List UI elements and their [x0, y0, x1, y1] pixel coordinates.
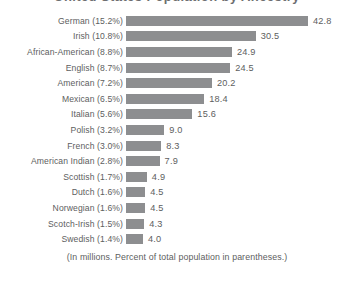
bar-value-label: 18.4 [209, 94, 228, 104]
bar-track: 30.5 [126, 29, 354, 45]
bar [126, 203, 145, 213]
bar [126, 16, 308, 26]
bar-value-label: 9.0 [169, 125, 182, 135]
bar-value-label: 4.5 [150, 203, 163, 213]
bar-row: Dutch (1.6%)4.5 [0, 185, 354, 201]
bar [126, 125, 164, 135]
bar-value-label: 30.5 [261, 31, 280, 41]
bar-track: 24.5 [126, 60, 354, 76]
bar [126, 109, 192, 119]
bar [126, 141, 161, 151]
bar-value-label: 4.0 [148, 234, 161, 244]
bar-value-label: 15.6 [197, 109, 216, 119]
bar-row: French (3.0%)8.3 [0, 138, 354, 154]
bar-track: 4.5 [126, 185, 354, 201]
bar-value-label: 8.3 [166, 141, 179, 151]
bar [126, 94, 204, 104]
bar-track: 4.9 [126, 169, 354, 185]
chart-footnote: (In millions. Percent of total populatio… [0, 252, 354, 262]
bar-category-label: Irish (10.8%) [0, 31, 126, 41]
bar-category-label: American Indian (2.8%) [0, 156, 126, 166]
bar [126, 187, 145, 197]
bar-track: 20.2 [126, 75, 354, 91]
bar-row: Scotch-Irish (1.5%)4.3 [0, 216, 354, 232]
bar-track: 15.6 [126, 107, 354, 123]
bar-category-label: German (15.2%) [0, 16, 126, 26]
bar-category-label: Dutch (1.6%) [0, 187, 126, 197]
bar-value-label: 24.5 [235, 63, 254, 73]
bar-category-label: African-American (8.8%) [0, 47, 126, 57]
chart-title: United States Population by Ancestry [0, 0, 354, 4]
bar-track: 4.5 [126, 200, 354, 216]
bar-row: German (15.2%)42.8 [0, 13, 354, 29]
bar-category-label: French (3.0%) [0, 141, 126, 151]
chart-plot-area: German (15.2%)42.8Irish (10.8%)30.5Afric… [0, 13, 354, 247]
bar-row: African-American (8.8%)24.9 [0, 44, 354, 60]
bar-value-label: 4.3 [149, 219, 162, 229]
bar-chart: United States Population by Ancestry Ger… [0, 0, 354, 281]
bar [126, 172, 147, 182]
bar-category-label: Polish (3.2%) [0, 125, 126, 135]
bar-value-label: 4.5 [150, 187, 163, 197]
bar-row: Italian (5.6%)15.6 [0, 107, 354, 123]
bar-category-label: Swedish (1.4%) [0, 234, 126, 244]
bar-track: 18.4 [126, 91, 354, 107]
bar-track: 8.3 [126, 138, 354, 154]
bar-row: American (7.2%)20.2 [0, 75, 354, 91]
bar-category-label: Scotch-Irish (1.5%) [0, 219, 126, 229]
bar-value-label: 7.9 [165, 156, 178, 166]
bar-category-label: Italian (5.6%) [0, 109, 126, 119]
bar-value-label: 24.9 [237, 47, 256, 57]
bar-track: 42.8 [126, 13, 354, 29]
bar-category-label: English (8.7%) [0, 63, 126, 73]
bar-category-label: Norwegian (1.6%) [0, 203, 126, 213]
bar-value-label: 42.8 [313, 16, 332, 26]
bar-track: 9.0 [126, 122, 354, 138]
bar-row: Polish (3.2%)9.0 [0, 122, 354, 138]
bar [126, 78, 212, 88]
bar-track: 24.9 [126, 44, 354, 60]
bar-row: Scottish (1.7%)4.9 [0, 169, 354, 185]
bar-category-label: American (7.2%) [0, 78, 126, 88]
bar-row: Swedish (1.4%)4.0 [0, 231, 354, 247]
bar [126, 156, 160, 166]
bar-row: English (8.7%)24.5 [0, 60, 354, 76]
bar [126, 47, 232, 57]
bar-track: 7.9 [126, 153, 354, 169]
bar-row: Norwegian (1.6%)4.5 [0, 200, 354, 216]
bar-category-label: Mexican (6.5%) [0, 94, 126, 104]
bar [126, 234, 143, 244]
bar [126, 63, 230, 73]
bar-value-label: 4.9 [152, 172, 165, 182]
bar-category-label: Scottish (1.7%) [0, 172, 126, 182]
bar-value-label: 20.2 [217, 78, 236, 88]
bar [126, 31, 256, 41]
bar [126, 219, 144, 229]
bar-row: Irish (10.8%)30.5 [0, 29, 354, 45]
bar-track: 4.3 [126, 216, 354, 232]
bar-row: American Indian (2.8%)7.9 [0, 153, 354, 169]
bar-row: Mexican (6.5%)18.4 [0, 91, 354, 107]
bar-track: 4.0 [126, 231, 354, 247]
